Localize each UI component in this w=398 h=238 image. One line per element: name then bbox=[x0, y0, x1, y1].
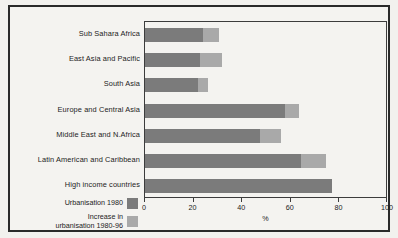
category-label: South Asia bbox=[10, 79, 140, 88]
bar-segment-base bbox=[145, 179, 332, 193]
category-label: Sub Sahara Africa bbox=[10, 29, 140, 38]
bar-segment-base bbox=[145, 104, 285, 118]
category-label: Europe and Central Asia bbox=[10, 105, 140, 114]
plot-area bbox=[144, 21, 387, 198]
x-axis-tick-label: 80 bbox=[334, 203, 342, 212]
chart-legend: Urbanisation 1980 Increase in urbanisati… bbox=[20, 198, 138, 234]
bar-segment-increase bbox=[260, 129, 281, 143]
bar-segment-base bbox=[145, 28, 203, 42]
x-axis-tick-label: 0 bbox=[142, 203, 146, 212]
legend-swatch-icon bbox=[127, 216, 138, 227]
bar-row bbox=[145, 179, 332, 193]
bar-segment-increase bbox=[200, 53, 222, 67]
legend-item-urbanisation-1980: Urbanisation 1980 bbox=[20, 198, 138, 209]
bar-segment-base bbox=[145, 129, 260, 143]
legend-item-increase-1980-96: Increase in urbanisation 1980-96 bbox=[20, 213, 138, 230]
bar-segment-increase bbox=[285, 104, 300, 118]
bar-row bbox=[145, 129, 281, 143]
x-axis-title: % bbox=[144, 214, 387, 223]
legend-swatch-icon bbox=[127, 198, 138, 209]
category-label: East Asia and Pacific bbox=[10, 54, 140, 63]
x-axis-tick bbox=[144, 198, 145, 202]
bar-row bbox=[145, 104, 299, 118]
legend-label: Urbanisation 1980 bbox=[65, 199, 123, 208]
bar-row bbox=[145, 53, 222, 67]
bar-segment-increase bbox=[301, 154, 327, 168]
x-axis-tick-label: 60 bbox=[286, 203, 294, 212]
x-axis: % 020406080100 bbox=[144, 198, 387, 228]
x-axis-tick-label: 100 bbox=[381, 203, 393, 212]
legend-label: Increase in urbanisation 1980-96 bbox=[55, 213, 123, 230]
x-axis-tick bbox=[193, 198, 194, 202]
x-axis-tick bbox=[241, 198, 242, 202]
category-label: Latin American and Caribbean bbox=[10, 155, 140, 164]
bar-segment-increase bbox=[198, 78, 208, 92]
bar-row bbox=[145, 78, 208, 92]
bar-segment-base bbox=[145, 154, 301, 168]
bar-row bbox=[145, 28, 219, 42]
category-label: Middle East and N.Africa bbox=[10, 130, 140, 139]
bar-segment-increase bbox=[203, 28, 219, 42]
chart-frame: Sub Sahara AfricaEast Asia and PacificSo… bbox=[8, 5, 390, 232]
bar-segment-base bbox=[145, 53, 200, 67]
bar-segment-base bbox=[145, 78, 198, 92]
category-axis-labels: Sub Sahara AfricaEast Asia and PacificSo… bbox=[10, 21, 140, 198]
x-axis-tick bbox=[386, 198, 387, 202]
x-axis-tick bbox=[290, 198, 291, 202]
x-axis-tick-label: 20 bbox=[189, 203, 197, 212]
bar-row bbox=[145, 154, 326, 168]
bar-group bbox=[145, 22, 388, 199]
x-axis-tick bbox=[338, 198, 339, 202]
category-label: High income countries bbox=[10, 180, 140, 189]
chart-figure: Sub Sahara AfricaEast Asia and PacificSo… bbox=[0, 0, 398, 238]
x-axis-tick-label: 40 bbox=[237, 203, 245, 212]
